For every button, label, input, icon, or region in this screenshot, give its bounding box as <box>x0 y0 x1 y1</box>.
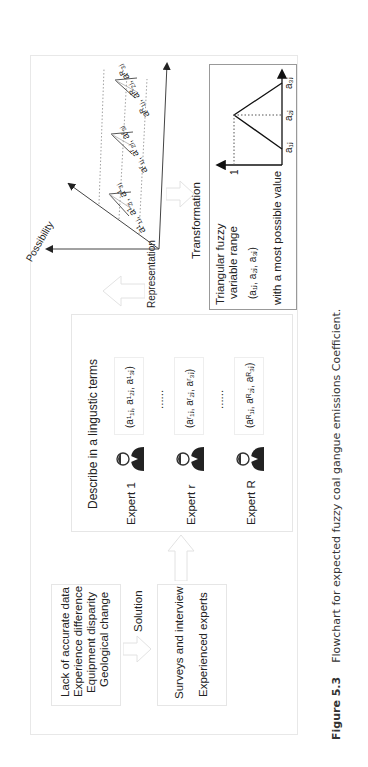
ellipsis: ...... <box>212 390 226 409</box>
solution-line: Surveys and interview <box>172 587 186 700</box>
flowchart-canvas: Lack of accurate data Experience differe… <box>30 55 298 735</box>
tfn-tuple: (a₁ⱼ, a₂ⱼ, a₃ⱼ) <box>246 247 260 299</box>
ellipsis: ...... <box>152 390 166 409</box>
experts-title: Describe in a lingustic terms <box>86 359 100 509</box>
tfn-title-2: variable range <box>226 226 240 299</box>
figure-caption: Figure 5.3Flowchart for expected fuzzy c… <box>330 40 343 740</box>
tfn-title-1: Triangular fuzzy <box>213 224 227 305</box>
problems-box: Lack of accurate data Experience differe… <box>51 584 121 706</box>
problem-line: Equipment disparity <box>84 592 98 693</box>
expert-r-label: Expert r <box>184 485 198 525</box>
problem-line: Experience difference <box>71 586 85 697</box>
person-icon <box>234 445 264 473</box>
expert-R-terms: (aᴿ₁ⱼ, aᴿ₂ⱼ, aᴿ₃ⱼ) <box>243 363 257 428</box>
transformation-label: Transformation <box>189 182 203 259</box>
solution-line: Experienced experts <box>196 592 210 697</box>
tfn-x-tick-2: a₂ⱼ <box>282 110 296 121</box>
expert-1-label: Expert 1 <box>124 482 138 525</box>
tfn-box: Triangular fuzzy variable range (a₁ⱼ, a₂… <box>209 64 297 310</box>
tfn-x-tick-1: a₁ⱼ <box>282 142 296 153</box>
expert-R-label: Expert R <box>244 480 258 525</box>
solution-arrow-icon <box>123 634 153 664</box>
person-icon <box>114 445 144 473</box>
expert-r-terms-box: (aʳ₁ⱼ, aʳ₂ⱼ, aʳ₃ⱼ) <box>174 357 204 435</box>
solution-label: Solution <box>131 590 145 632</box>
person-icon <box>174 445 204 473</box>
problem-line: Lack of accurate data <box>58 587 72 697</box>
expert-1-terms-box: (a¹₁ⱼ, a¹₂ⱼ, a¹₃ⱼ) <box>114 357 144 435</box>
problem-line: Geological change <box>97 592 111 687</box>
tfn-y-tick: 1 <box>228 169 242 175</box>
tfn-note: with a most possible value <box>270 171 284 305</box>
figure: Lack of accurate data Experience differe… <box>30 55 298 735</box>
expert-r-terms: (aʳ₁ⱼ, aʳ₂ⱼ, aʳ₃ⱼ) <box>183 369 197 428</box>
tfn-x-tick-3: a₃ⱼ <box>282 77 296 89</box>
solution-box: Surveys and interview Experienced expert… <box>157 584 227 706</box>
expert-R-terms-box: (aᴿ₁ⱼ, aᴿ₂ⱼ, aᴿ₃ⱼ) <box>234 357 264 435</box>
figure-caption-text: Flowchart for expected fuzzy coal gangue… <box>330 309 343 663</box>
expert-1-terms: (a¹₁ⱼ, a¹₂ⱼ, a¹₃ⱼ) <box>123 366 137 428</box>
figure-number: Figure 5.3 <box>330 677 343 740</box>
experts-box: Describe in a lingustic terms Expert 1 (… <box>71 314 293 532</box>
right-arrow-icon <box>166 533 196 581</box>
